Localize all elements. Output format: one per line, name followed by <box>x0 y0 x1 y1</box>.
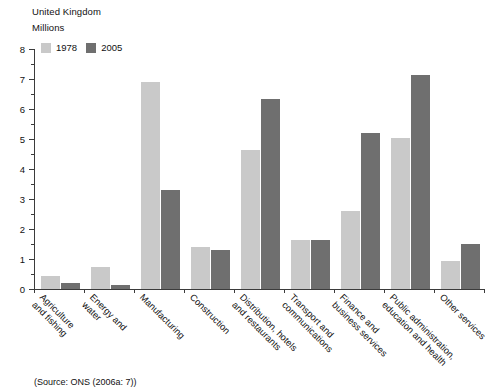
source-note: (Source: ONS (2006a: 7)) <box>34 377 137 387</box>
bar <box>461 244 480 289</box>
chart-units-label: Millions <box>32 22 64 33</box>
y-tick-major: 1 <box>29 259 34 260</box>
y-tick-major: 3 <box>29 199 34 200</box>
y-tick-major: 5 <box>29 139 34 140</box>
y-tick-label: 5 <box>20 134 25 145</box>
y-tick-minor <box>31 274 34 275</box>
y-tick-minor <box>31 154 34 155</box>
x-category-label-line1: Other services <box>438 292 487 341</box>
bar <box>91 267 110 290</box>
y-tick-minor <box>31 214 34 215</box>
y-tick-label: 1 <box>20 254 25 265</box>
y-tick-minor <box>31 124 34 125</box>
bar <box>341 211 360 289</box>
y-tick-major: 7 <box>29 79 34 80</box>
bar <box>261 99 280 290</box>
x-axis-line <box>34 289 485 290</box>
y-tick-label: 3 <box>20 194 25 205</box>
y-tick-minor <box>31 94 34 95</box>
y-tick-minor <box>31 184 34 185</box>
y-tick-label: 6 <box>20 104 25 115</box>
bar <box>361 133 380 289</box>
x-category-label: Agricultureand fishing <box>30 292 77 339</box>
y-tick-label: 8 <box>20 44 25 55</box>
bar <box>311 240 330 290</box>
bar <box>241 150 260 290</box>
y-tick-major: 8 <box>29 49 34 50</box>
x-category-label: Other services <box>438 292 488 342</box>
bar <box>211 250 230 289</box>
y-tick-label: 0 <box>20 284 25 295</box>
x-category-label: Manufacturing <box>138 292 187 341</box>
bar <box>161 190 180 289</box>
x-category-label-line1: Manufacturing <box>138 292 187 341</box>
bar <box>191 247 210 289</box>
bar <box>111 285 130 290</box>
y-tick-major: 4 <box>29 169 34 170</box>
bar <box>141 82 160 289</box>
x-category-label-line1: Construction <box>188 292 232 336</box>
x-category-label: Energy andwater <box>80 292 128 340</box>
employment-by-industry-bar-chart: United Kingdom Millions 1978 2005 012345… <box>0 0 491 387</box>
plot-area: 012345678 <box>34 49 485 289</box>
y-tick-major: 6 <box>29 109 34 110</box>
y-tick-major: 2 <box>29 229 34 230</box>
x-category-label: Construction <box>188 292 232 336</box>
x-axis-category-labels: Agricultureand fishingEnergy andwaterMan… <box>34 292 485 384</box>
chart-region-label: United Kingdom <box>32 6 101 17</box>
bar <box>41 276 60 290</box>
bar <box>441 261 460 290</box>
bar <box>411 75 430 290</box>
y-tick-label: 4 <box>20 164 25 175</box>
y-tick-minor <box>31 64 34 65</box>
y-tick-label: 2 <box>20 224 25 235</box>
bars-layer <box>35 49 485 289</box>
bar <box>391 138 410 290</box>
x-category-label-line2: education and health <box>380 299 450 369</box>
bar <box>291 240 310 290</box>
y-tick-minor <box>31 244 34 245</box>
bar <box>61 283 80 289</box>
y-tick-label: 7 <box>20 74 25 85</box>
